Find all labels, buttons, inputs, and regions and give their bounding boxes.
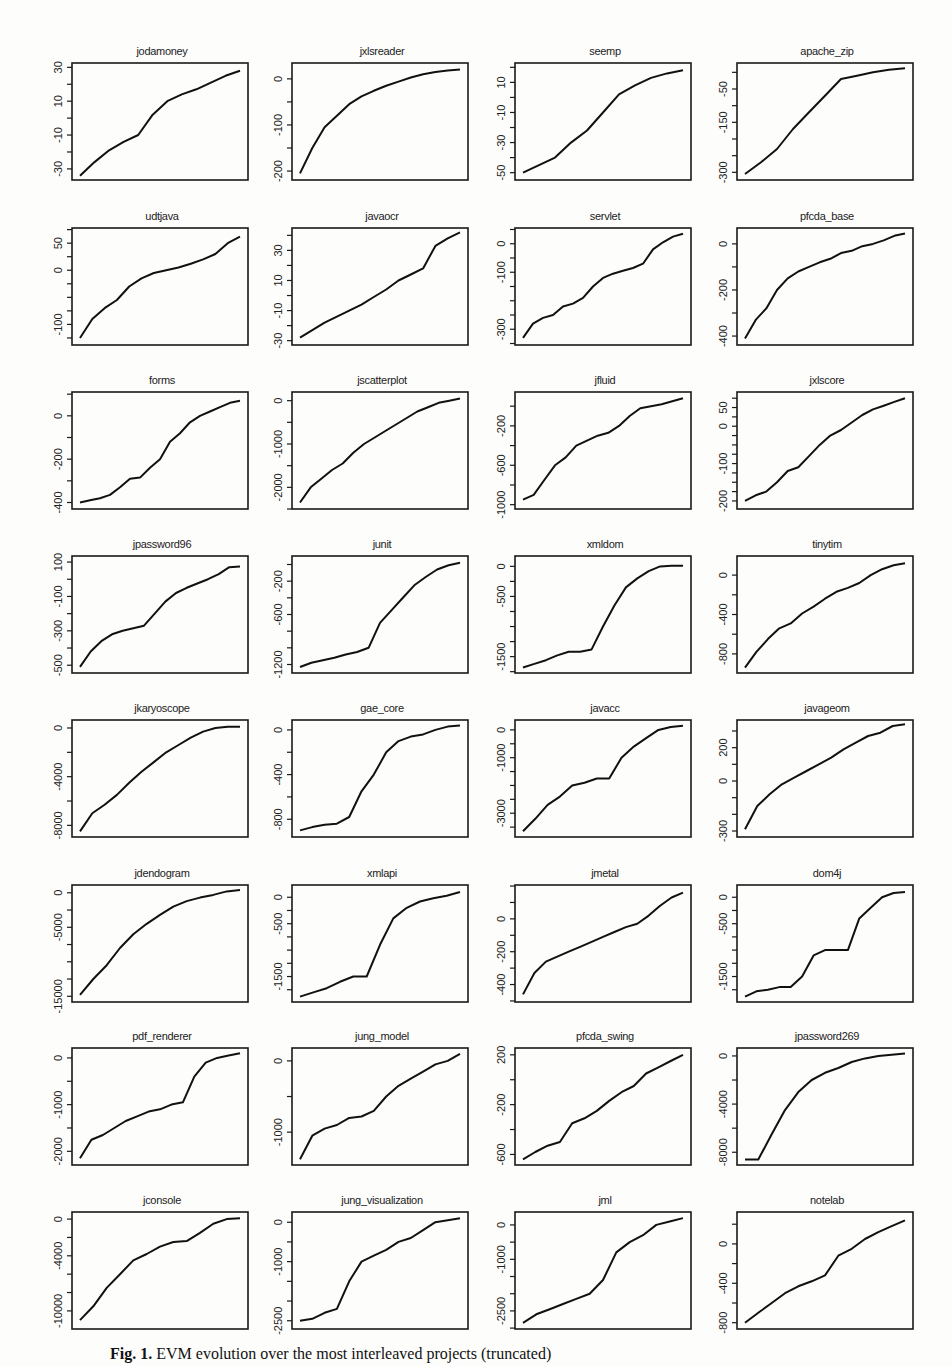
y-tick-label: 0 <box>717 894 729 900</box>
evm-series-line <box>745 724 905 829</box>
line-plot: 0-1000 <box>250 1030 470 1190</box>
evm-series-line <box>523 70 683 172</box>
plot-frame <box>737 392 913 509</box>
y-tick-label: 0 <box>717 778 729 784</box>
chart-panel-jdendogram: jdendogram0-5000-15000 <box>30 867 248 1027</box>
plot-frame <box>737 885 913 1002</box>
chart-panel-forms: forms0-200-400 <box>30 374 248 534</box>
line-plot: 0-4000-10000 <box>30 1194 250 1354</box>
y-tick-label: -1000 <box>495 491 507 519</box>
plot-frame <box>737 228 913 345</box>
evm-series-line <box>745 68 905 174</box>
y-tick-label: -10 <box>52 127 64 143</box>
plot-frame <box>292 392 468 509</box>
y-tick-label: 0 <box>272 398 284 404</box>
y-tick-label: -8000 <box>717 1138 729 1166</box>
line-plot: 3010-10-30 <box>250 210 470 370</box>
chart-panel-jxlsreader: jxlsreader0-100-200 <box>250 45 468 205</box>
y-tick-label: 0 <box>272 76 284 82</box>
y-tick-label: -15000 <box>52 979 64 1013</box>
y-tick-label: -200 <box>495 415 507 437</box>
y-tick-label: -200 <box>272 160 284 182</box>
plot-frame <box>292 63 468 180</box>
y-tick-label: -5000 <box>52 913 64 941</box>
y-tick-label: -4000 <box>52 1242 64 1270</box>
line-plot: 0-1000-3000 <box>473 702 693 862</box>
chart-panel-notelab: notelab0-400-800 <box>695 1194 913 1354</box>
chart-panel-jconsole: jconsole0-4000-10000 <box>30 1194 248 1354</box>
y-tick-label: 200 <box>495 1046 507 1064</box>
line-plot: -200-600-1000 <box>473 374 693 534</box>
chart-panel-jfluid: jfluid-200-600-1000 <box>473 374 691 534</box>
y-tick-label: -400 <box>717 603 729 625</box>
plot-frame <box>292 556 468 673</box>
y-tick-label: -200 <box>495 941 507 963</box>
line-plot: 0-1000-2000 <box>250 374 470 534</box>
line-plot: 0-4000-8000 <box>695 1030 915 1190</box>
plot-frame <box>515 392 691 509</box>
line-plot: -50-150-300 <box>695 45 915 205</box>
line-plot: 200-200-600 <box>473 1030 693 1190</box>
chart-panel-pdf-renderer: pdf_renderer0-1000-2000 <box>30 1030 248 1190</box>
evm-series-line <box>745 1054 905 1160</box>
chart-panel-tinytim: tinytim0-400-800 <box>695 538 913 698</box>
evm-series-line <box>523 398 683 499</box>
y-tick-label: 0 <box>272 727 284 733</box>
y-tick-label: 200 <box>717 738 729 756</box>
evm-series-line <box>80 1218 240 1320</box>
y-tick-label: -100 <box>52 585 64 607</box>
y-tick-label: -600 <box>272 603 284 625</box>
y-tick-label: 30 <box>52 61 64 73</box>
line-plot: 0-200-400 <box>695 210 915 370</box>
y-tick-label: -300 <box>717 820 729 842</box>
y-tick-label: 0 <box>495 241 507 247</box>
evm-series-line <box>80 727 240 832</box>
evm-series-line <box>745 398 905 501</box>
y-tick-label: 0 <box>495 563 507 569</box>
y-tick-label: -1000 <box>272 1118 284 1146</box>
evm-series-line <box>300 399 460 503</box>
y-tick-label: 0 <box>52 890 64 896</box>
y-tick-label: -1500 <box>717 962 729 990</box>
y-tick-label: 10 <box>495 76 507 88</box>
evm-series-line <box>80 71 240 176</box>
line-plot: 100-100-300-500 <box>30 538 250 698</box>
y-tick-label: 100 <box>52 553 64 571</box>
y-tick-label: 0 <box>52 725 64 731</box>
line-plot: 500-100-200 <box>695 374 915 534</box>
y-tick-label: -2500 <box>272 1307 284 1335</box>
caption-text: EVM evolution over the most interleaved … <box>156 1345 551 1362</box>
y-tick-label: 0 <box>717 241 729 247</box>
chart-panel-apache-zip: apache_zip-50-150-300 <box>695 45 913 205</box>
y-tick-label: -1200 <box>272 650 284 678</box>
y-tick-label: 0 <box>495 916 507 922</box>
evm-series-line <box>80 1053 240 1158</box>
y-tick-label: -1500 <box>272 962 284 990</box>
chart-panel-jmetal: jmetal0-200-400 <box>473 867 691 1027</box>
y-tick-label: -50 <box>717 81 729 97</box>
y-tick-label: -8000 <box>52 811 64 839</box>
y-tick-label: -100 <box>717 453 729 475</box>
plot-frame <box>292 720 468 837</box>
chart-panel-javaocr: javaocr3010-10-30 <box>250 210 468 370</box>
caption-label: Fig. 1. <box>110 1345 152 1362</box>
evm-series-line <box>523 893 683 995</box>
chart-panel-jung-visualization: jung_visualization0-1000-2500 <box>250 1194 468 1354</box>
chart-panel-pfcda-base: pfcda_base0-200-400 <box>695 210 913 370</box>
chart-panel-jpassword96: jpassword96100-100-300-500 <box>30 538 248 698</box>
evm-series-line <box>300 1218 460 1320</box>
chart-panel-javageom: javageom2000-300 <box>695 702 913 862</box>
chart-panel-jkaryoscope: jkaryoscope0-4000-8000 <box>30 702 248 862</box>
y-tick-label: -30 <box>52 161 64 177</box>
y-tick-label: 0 <box>717 1241 729 1247</box>
y-tick-label: -800 <box>717 1312 729 1334</box>
line-plot: 0-500-1500 <box>250 867 470 1027</box>
line-plot: 0-400-800 <box>695 538 915 698</box>
evm-series-line <box>745 234 905 339</box>
chart-panel-jpassword269: jpassword2690-4000-8000 <box>695 1030 913 1190</box>
y-tick-label: -200 <box>717 490 729 512</box>
chart-panel-jml: jml0-1000-2500 <box>473 1194 691 1354</box>
plot-frame <box>72 720 248 837</box>
evm-series-line <box>523 1218 683 1323</box>
plot-frame <box>737 720 913 837</box>
